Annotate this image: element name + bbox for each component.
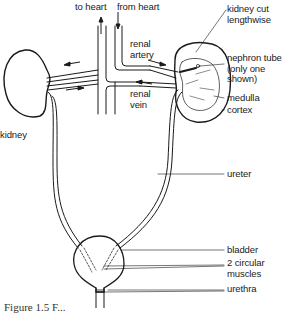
label-line: nephron tube	[227, 53, 282, 64]
nephron-tube	[180, 68, 196, 72]
figure-caption: Figure 1.5 F...	[4, 301, 65, 313]
label-renal-vein: renal vein	[130, 89, 151, 110]
label-to-heart: to heart	[75, 2, 106, 13]
label-line: renal	[130, 39, 154, 50]
label-renal-artery: renal artery	[130, 39, 154, 60]
left-kidney	[4, 50, 50, 117]
label-line: renal	[130, 89, 151, 100]
label-from-heart: from heart	[117, 2, 159, 13]
label-line: vein	[130, 100, 151, 111]
label-line: muscles	[227, 269, 265, 280]
left-ureter	[48, 92, 78, 248]
label-line: lengthwise	[227, 15, 271, 26]
label-urethra: urethra	[227, 284, 256, 295]
label-line: shown)	[227, 74, 282, 85]
label-line: artery	[130, 50, 154, 61]
urethra	[96, 288, 104, 308]
label-circular-muscles: 2 circular muscles	[227, 258, 265, 279]
label-medulla: medulla	[227, 93, 260, 104]
label-kidney-cut: kidney cut lengthwise	[227, 4, 271, 25]
label-cortex: cortex	[227, 105, 252, 116]
label-nephron-tube: nephron tube (only one shown)	[227, 53, 282, 85]
label-line: 2 circular	[227, 258, 265, 269]
label-ureter: ureter	[227, 169, 251, 180]
label-bladder: bladder	[227, 245, 258, 256]
label-line: kidney cut	[227, 4, 271, 15]
label-kidney: kidney	[0, 130, 27, 141]
